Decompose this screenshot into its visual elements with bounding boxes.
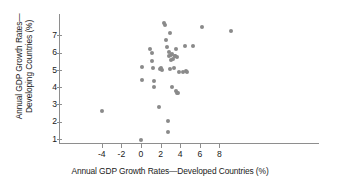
y-tick-label: 1 [43,135,57,144]
data-point [229,29,233,33]
y-tick-mark [57,70,62,71]
data-point [152,85,156,89]
y-tick-label: 4 [43,83,57,92]
y-tick-mark [57,87,62,88]
y-tick-label: 6 [43,48,57,57]
data-point [174,47,178,51]
x-axis-line [59,143,319,144]
data-point [157,105,161,109]
data-point [200,25,204,29]
data-point [168,31,172,35]
x-tick-label: -4 [92,150,112,159]
y-tick-label: 5 [43,66,57,75]
y-tick-label: 2 [43,117,57,126]
y-axis-line [59,14,60,144]
x-tick-mark [219,143,220,148]
data-point [166,130,170,134]
data-point [165,45,169,49]
x-tick-label: 2 [151,150,171,159]
data-point [175,55,179,59]
x-tick-label: 6 [190,150,210,159]
data-point [170,85,174,89]
plot-area: 1234567 -4-202468 [0,0,340,193]
x-tick-mark [161,143,162,148]
data-point [140,65,144,69]
data-point [183,44,187,48]
data-point [140,78,144,82]
y-tick-mark [57,35,62,36]
x-tick-mark [102,143,103,148]
x-tick-mark [121,143,122,148]
x-tick-mark [180,143,181,148]
data-point [160,68,164,72]
x-tick-label: 4 [170,150,190,159]
x-tick-mark [200,143,201,148]
data-point [150,51,154,55]
data-point [151,66,155,70]
data-point [139,138,143,142]
y-tick-label: 3 [43,100,57,109]
y-tick-label: 7 [43,31,57,40]
data-point [172,66,176,70]
x-tick-label: 0 [131,150,151,159]
scatter-plot-figure: Annual GDP Growth Rates— Developing Coun… [0,0,340,193]
y-tick-mark [57,139,62,140]
data-point [185,70,189,74]
x-tick-label: 8 [209,150,229,159]
data-point [152,79,156,83]
data-point [164,38,168,42]
data-point [191,44,195,48]
y-tick-mark [57,122,62,123]
y-tick-mark [57,104,62,105]
y-tick-mark [57,53,62,54]
data-point [150,59,154,63]
data-point [163,23,167,27]
data-point [166,119,170,123]
data-point [100,109,104,113]
data-point [176,91,180,95]
x-tick-label: -2 [111,150,131,159]
x-tick-mark [141,143,142,148]
data-point [177,70,181,74]
